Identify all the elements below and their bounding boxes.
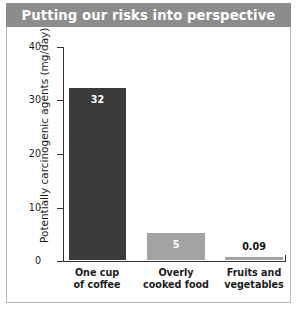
bar-value-label-cooked-food: 5: [147, 239, 205, 250]
bar-value-label-coffee: 32: [69, 94, 126, 105]
x-axis-line: [63, 261, 286, 262]
x-axis-category-label-cooked-food-line2: cooked food: [137, 279, 215, 291]
bar-value-label-fruits-and-vegetables: 0.09: [225, 241, 283, 252]
chart-title: Putting our risks into perspective: [22, 8, 276, 23]
y-tick-mark-10: [57, 208, 63, 209]
y-tick-label-30: 30: [1, 95, 41, 105]
bar-fruits-and-vegetables: [225, 257, 283, 260]
x-axis-category-label-coffee: One cup of coffee: [58, 267, 136, 291]
bar-one-cup-of-coffee: 32: [69, 88, 126, 260]
y-axis-label: Potentially carcinogenic agents (mg/day): [38, 43, 50, 243]
x-axis-category-label-fruits-vegetables-line2: vegetables: [215, 279, 293, 291]
plot-panel: Potentially carcinogenic agents (mg/day)…: [6, 27, 291, 303]
y-tick-mark-20: [57, 154, 63, 155]
x-axis-category-label-coffee-line1: One cup: [58, 267, 136, 279]
x-axis-category-label-cooked-food: Overly cooked food: [137, 267, 215, 291]
chart-figure: Putting our risks into perspective Poten…: [0, 0, 297, 315]
x-axis-category-label-cooked-food-line1: Overly: [137, 267, 215, 279]
y-tick-mark-40: [57, 47, 63, 48]
y-axis-line: [63, 47, 64, 262]
bar-overly-cooked-food: 5: [147, 233, 205, 260]
y-tick-label-20: 20: [1, 149, 41, 159]
x-axis-category-label-fruits-vegetables: Fruits and vegetables: [215, 267, 293, 291]
y-tick-mark-30: [57, 100, 63, 101]
y-tick-mark-0: [57, 261, 63, 262]
y-tick-label-40: 40: [1, 42, 41, 52]
y-tick-label-10: 10: [1, 203, 41, 213]
x-axis-category-label-fruits-vegetables-line1: Fruits and: [215, 267, 293, 279]
x-axis-category-label-coffee-line2: of coffee: [58, 279, 136, 291]
x-axis-end-tick: [285, 255, 286, 262]
y-tick-label-0: 0: [1, 256, 41, 266]
chart-title-band: Putting our risks into perspective: [6, 3, 291, 27]
